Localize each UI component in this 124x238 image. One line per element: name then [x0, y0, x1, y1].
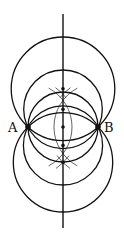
center-dot-4: [61, 161, 65, 165]
circles-through-two-points-diagram: A B: [0, 0, 124, 238]
lens-arc-from-b: [54, 88, 77, 166]
point-b-label: B: [104, 120, 114, 135]
point-a: [25, 124, 31, 130]
point-a-label: A: [7, 120, 18, 135]
center-dot-1: [61, 108, 65, 112]
center-dot-2: [61, 125, 65, 129]
point-b: [95, 124, 101, 130]
lens-arc-from-a: [49, 88, 72, 166]
center-dot-3: [61, 144, 65, 148]
center-dot-0: [61, 87, 65, 91]
